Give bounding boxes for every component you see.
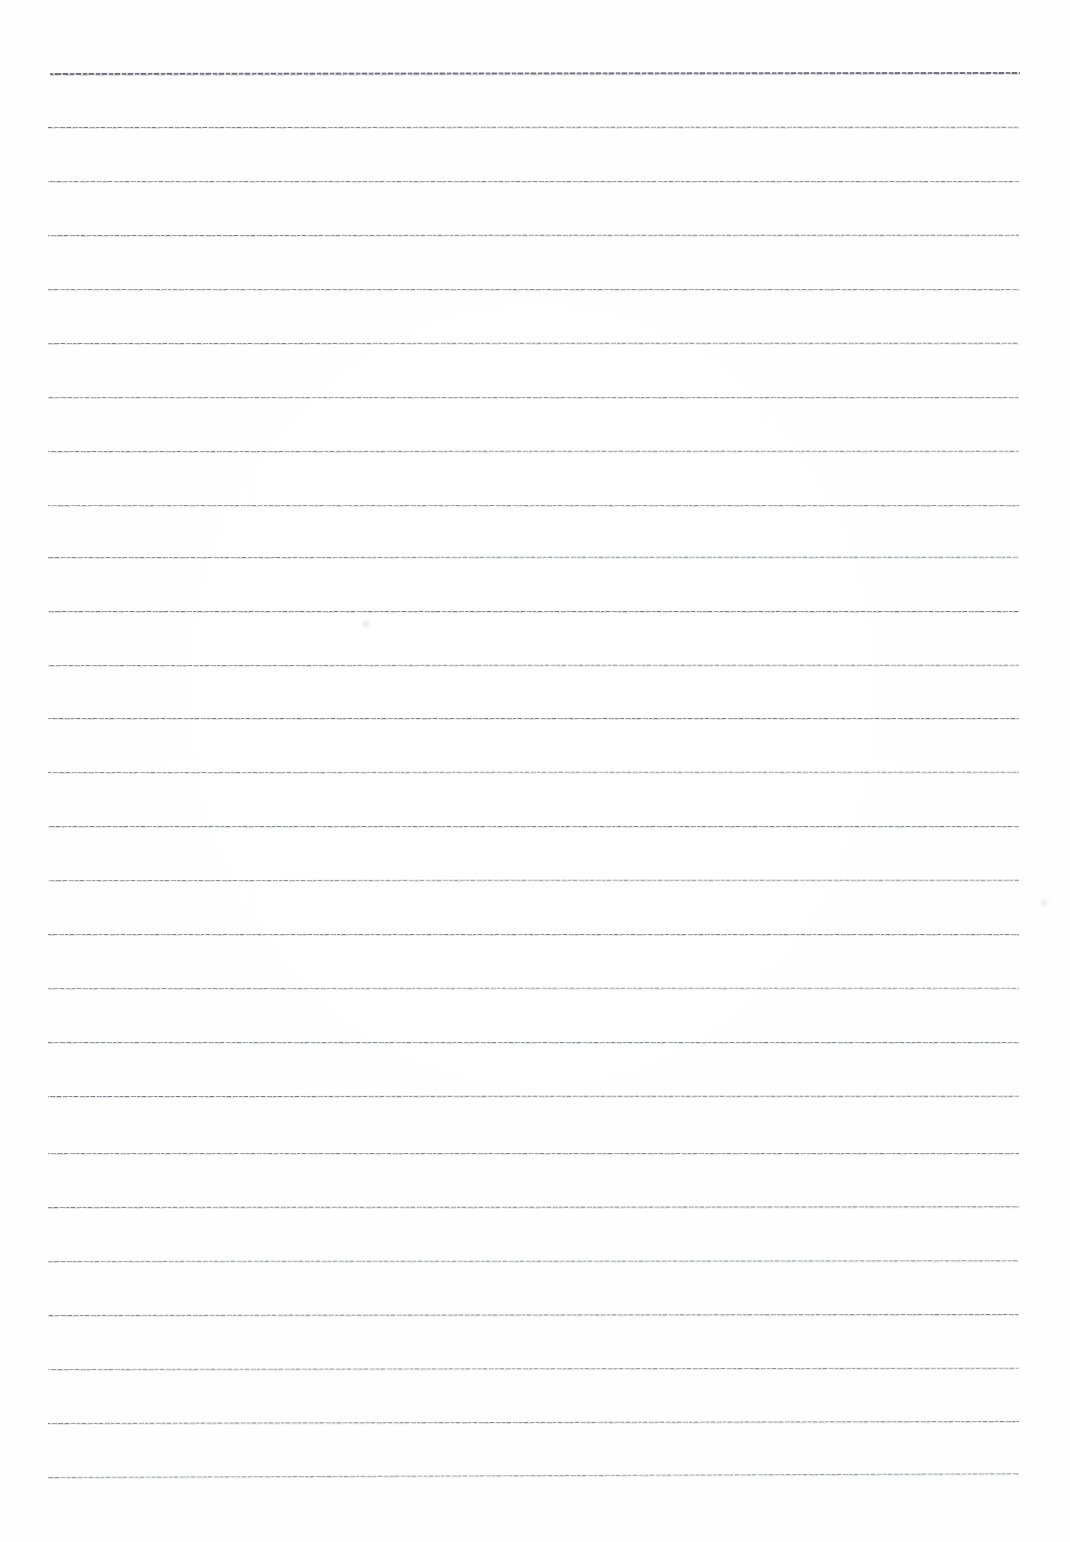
ruling-line-stroke — [48, 718, 1019, 719]
ruling-line-stroke — [48, 557, 1019, 558]
ruling-line-stroke — [48, 934, 1019, 935]
ruling-line — [48, 397, 1019, 399]
ruling-line-stroke — [48, 1096, 1019, 1097]
ruling-line-softness — [48, 128, 1019, 129]
ruling-line — [48, 181, 1019, 183]
ruling-line-stroke — [48, 1473, 1019, 1478]
ruling-line-stroke — [48, 1314, 1019, 1316]
ruling-line-stroke — [48, 505, 1019, 506]
ruling-line-stroke — [48, 397, 1019, 398]
ruling-line-stroke — [48, 611, 1019, 612]
ruling-line-stroke — [48, 1368, 1019, 1370]
ruling-line-softness — [48, 506, 1019, 507]
ruling-line-stroke — [48, 451, 1019, 452]
ruling-line — [48, 505, 1019, 507]
ruling-line — [48, 1421, 1019, 1425]
ruling-line — [48, 343, 1019, 345]
ruling-line-stroke — [48, 826, 1019, 827]
ruling-line-softness — [48, 1315, 1019, 1317]
ruling-line — [48, 1368, 1019, 1371]
ruling-line-stroke — [48, 1042, 1019, 1043]
ruling-line-softness — [48, 1474, 1019, 1479]
ruling-line-softness — [48, 1154, 1019, 1155]
ruling-line-softness — [48, 236, 1019, 237]
ruling-line-stroke — [48, 1260, 1019, 1262]
ruling-line-softness — [48, 182, 1019, 183]
ruling-line — [48, 1260, 1019, 1263]
ruling-line — [50, 72, 1020, 75]
ruling-line-softness — [48, 1261, 1019, 1263]
ruling-line-stroke — [48, 1206, 1019, 1208]
ruling-line-softness — [48, 1207, 1019, 1209]
ruling-line-softness — [48, 935, 1019, 936]
ruling-line-stroke — [48, 235, 1019, 236]
ruling-line-softness — [48, 398, 1019, 399]
ruling-line-stroke — [48, 127, 1019, 128]
ruling-line — [48, 1042, 1019, 1044]
ruling-line — [48, 235, 1019, 237]
ruling-line-softness — [48, 612, 1019, 613]
ruling-line — [48, 826, 1019, 828]
ruling-line-stroke — [48, 665, 1019, 666]
ruling-line — [48, 718, 1019, 720]
ruling-line-stroke — [50, 72, 1020, 75]
ruling-line — [48, 934, 1019, 936]
ruling-line — [48, 1153, 1019, 1155]
ruling-line-stroke — [48, 880, 1019, 881]
ruling-line-softness — [48, 666, 1019, 667]
ruling-line — [48, 557, 1019, 559]
ruling-line-stroke — [48, 1153, 1019, 1154]
ruling-line — [48, 1314, 1019, 1317]
ruling-line-softness — [48, 719, 1019, 720]
ruling-line-softness — [48, 989, 1019, 990]
ruling-line-stroke — [48, 1421, 1019, 1424]
ruling-line — [48, 1206, 1019, 1209]
ruling-lines-layer — [0, 0, 1070, 1542]
ruling-line — [48, 772, 1019, 774]
ruling-line-softness — [48, 773, 1019, 774]
ruling-line — [48, 1473, 1019, 1479]
ruling-line-softness — [48, 290, 1019, 291]
ruling-line-stroke — [48, 343, 1019, 344]
ruling-line — [48, 127, 1019, 129]
ruling-line-softness — [48, 558, 1019, 559]
ruling-line-softness — [48, 1097, 1019, 1098]
ruling-line-stroke — [48, 289, 1019, 290]
ruling-line-softness — [50, 74, 1020, 76]
ruling-line-softness — [48, 1422, 1019, 1425]
ruling-line — [48, 665, 1019, 667]
ruling-line-stroke — [48, 772, 1019, 773]
ruling-line-stroke — [48, 988, 1019, 989]
ruling-line-softness — [48, 344, 1019, 345]
ruling-line-softness — [48, 1369, 1019, 1371]
ruling-line — [48, 1096, 1019, 1098]
ruling-line-stroke — [48, 181, 1019, 182]
ruling-line — [48, 988, 1019, 990]
ruling-line-softness — [48, 881, 1019, 882]
ruling-line — [48, 451, 1019, 453]
scanned-page — [0, 0, 1070, 1542]
ruling-line-softness — [48, 452, 1019, 453]
ruling-line — [48, 611, 1019, 613]
ruling-line — [48, 880, 1019, 882]
ruling-line-softness — [48, 827, 1019, 828]
ruling-line-softness — [48, 1043, 1019, 1044]
ruling-line — [48, 289, 1019, 291]
